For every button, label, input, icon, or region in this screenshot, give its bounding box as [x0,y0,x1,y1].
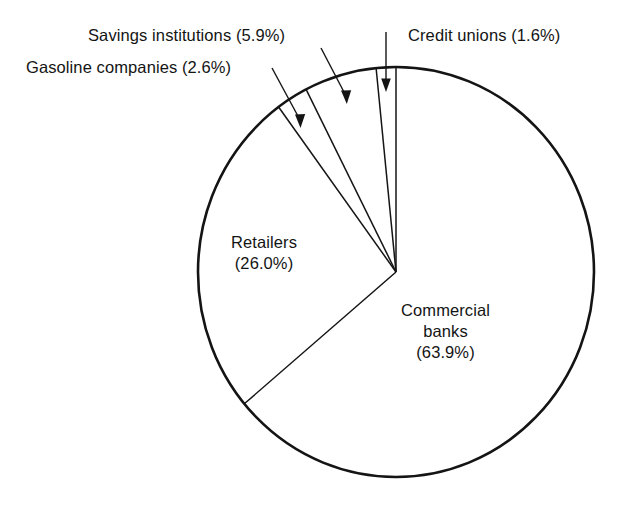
slice-label-retailers-value: (26.0%) [231,253,297,274]
callout-label-credit-unions: Credit unions (1.6%) [408,26,560,45]
slice-label-commercial-banks-line2: banks [401,321,490,342]
slice-label-commercial-banks-value: (63.9%) [401,342,490,363]
pie-chart-figure: Savings institutions (5.9%) Credit union… [0,0,629,508]
slice-label-commercial-banks: Commercial banks (63.9%) [401,300,490,363]
slice-label-commercial-banks-line1: Commercial [401,300,490,321]
slice-label-retailers: Retailers (26.0%) [231,232,297,274]
slice-label-retailers-name: Retailers [231,232,297,253]
callout-label-gasoline-companies: Gasoline companies (2.6%) [26,58,231,77]
callout-label-savings-institutions: Savings institutions (5.9%) [88,26,285,45]
